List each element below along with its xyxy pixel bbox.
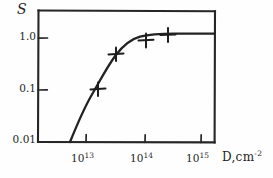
y-tick-label-0p1: 0.1	[10, 82, 36, 94]
x-tick-label-1e15-base: 10	[186, 152, 199, 164]
data-point-marker	[161, 28, 176, 42]
y-axis-title: S	[17, 1, 27, 17]
x-tick-label-1e15: 1015	[186, 152, 209, 164]
x-tick-label-1e14: 1014	[130, 152, 153, 164]
x-axis-title-exponent: -2	[254, 149, 262, 158]
y-tick-label-0p01: 0.01	[4, 133, 36, 145]
figure-sigmoid-plot: S D,cm-2 1.0 0.1 0.01 1013 1014 1015	[0, 0, 273, 178]
x-tick-label-1e15-exponent: 15	[199, 151, 209, 160]
data-curve	[70, 34, 214, 142]
x-tick-label-1e13-exponent: 13	[84, 151, 94, 160]
axis-left	[38, 11, 39, 143]
x-tick-label-1e14-base: 10	[130, 152, 143, 164]
y-tick-label-1: 1.0	[10, 30, 36, 42]
x-axis-title-text: D,cm	[222, 150, 254, 164]
x-axis-title: D,cm-2	[222, 150, 262, 164]
y-axis-ticks	[38, 38, 47, 90]
x-tick-label-1e13: 1013	[71, 152, 94, 164]
x-tick-label-1e14-exponent: 14	[143, 151, 153, 160]
axes-frame	[38, 11, 215, 143]
axis-top	[39, 11, 216, 12]
x-tick-label-1e13-base: 10	[71, 152, 84, 164]
